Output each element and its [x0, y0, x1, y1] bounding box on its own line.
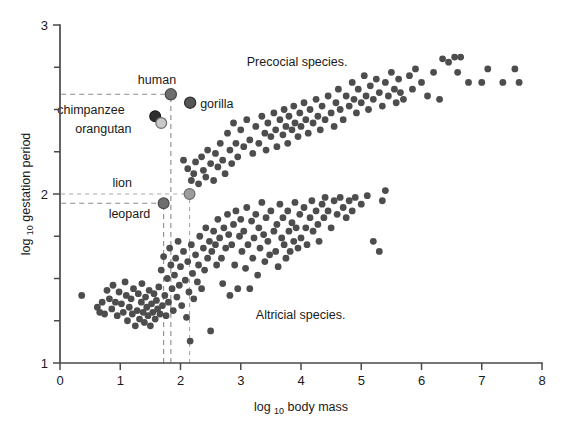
data-point	[373, 76, 380, 83]
data-point	[237, 216, 244, 223]
data-point	[328, 224, 335, 231]
x-axis-title: log 10 body mass	[254, 400, 348, 416]
data-point	[379, 103, 386, 110]
data-point	[280, 131, 287, 138]
point-label-human: human	[138, 73, 176, 87]
data-point	[112, 299, 119, 306]
data-point	[155, 284, 162, 291]
data-point	[307, 106, 314, 113]
x-tick-label: 6	[418, 373, 425, 388]
highlighted-point-human	[165, 89, 176, 100]
data-point	[240, 228, 247, 235]
data-point	[274, 221, 281, 228]
data-point	[189, 270, 196, 277]
data-point	[283, 123, 290, 130]
data-point	[158, 267, 165, 274]
data-point	[243, 204, 250, 211]
data-point	[180, 248, 187, 255]
point-label-chimpanzee: chimpanzee	[57, 103, 124, 117]
data-point	[192, 251, 199, 258]
data-point	[195, 262, 202, 269]
data-point	[157, 311, 164, 318]
data-point	[255, 140, 262, 147]
data-point	[218, 255, 225, 262]
data-point	[287, 248, 294, 255]
data-point	[176, 282, 183, 289]
data-point	[278, 235, 285, 242]
data-point	[358, 201, 365, 208]
data-point	[361, 72, 368, 79]
data-point	[217, 140, 224, 147]
data-point	[337, 106, 344, 113]
data-point	[251, 235, 258, 242]
data-point	[346, 103, 353, 110]
data-point	[216, 235, 223, 242]
data-point	[355, 86, 362, 93]
data-point	[325, 93, 332, 100]
data-point	[122, 278, 129, 285]
data-point	[302, 224, 309, 231]
data-point	[243, 116, 250, 123]
x-tick-label: 3	[237, 373, 244, 388]
data-point	[252, 211, 259, 218]
data-point	[418, 79, 425, 86]
y-tick-label: 3	[41, 18, 48, 33]
data-point	[261, 130, 268, 137]
data-point	[180, 157, 187, 164]
data-point	[310, 120, 317, 127]
data-point	[151, 290, 158, 297]
data-point	[289, 126, 296, 133]
data-point	[230, 221, 237, 228]
data-point	[349, 79, 356, 86]
data-point	[376, 248, 383, 255]
data-point	[308, 197, 315, 204]
data-point	[120, 309, 127, 316]
point-label-gorilla: gorilla	[200, 97, 233, 111]
data-point	[391, 86, 398, 93]
data-point	[254, 272, 261, 279]
data-point	[272, 126, 279, 133]
data-point	[365, 106, 372, 113]
data-point	[153, 297, 160, 304]
data-point	[219, 157, 226, 164]
x-tick-label: 5	[358, 373, 365, 388]
data-point	[245, 241, 252, 248]
data-point	[190, 295, 197, 302]
data-point	[322, 194, 329, 201]
data-point	[283, 255, 290, 262]
data-point	[234, 153, 241, 160]
data-point	[301, 204, 308, 211]
data-point	[290, 103, 297, 110]
data-point	[204, 255, 211, 262]
data-point	[246, 285, 253, 292]
data-point	[281, 106, 288, 113]
data-point	[106, 295, 113, 302]
data-point	[196, 233, 203, 240]
point-label-lion: lion	[113, 176, 133, 190]
data-point	[457, 54, 464, 61]
data-point	[266, 251, 273, 258]
point-label-leopard: leopard	[109, 207, 151, 221]
data-point	[277, 201, 284, 208]
data-point	[258, 113, 265, 120]
highlighted-point-lion	[184, 189, 195, 200]
data-point	[118, 300, 125, 307]
data-point	[409, 86, 416, 93]
highlighted-point-gorilla	[185, 97, 196, 108]
data-point	[260, 231, 267, 238]
data-point	[237, 126, 244, 133]
data-point	[275, 263, 282, 270]
data-point	[376, 89, 383, 96]
data-point	[292, 120, 299, 127]
data-point	[171, 272, 178, 279]
data-point	[212, 241, 219, 248]
data-point	[424, 93, 431, 100]
data-point	[382, 79, 389, 86]
data-point	[227, 292, 234, 299]
data-point	[165, 299, 172, 306]
data-point	[325, 208, 332, 215]
data-point	[195, 180, 202, 187]
data-point	[263, 214, 270, 221]
x-tick-label: 2	[177, 373, 184, 388]
data-point	[230, 120, 237, 127]
